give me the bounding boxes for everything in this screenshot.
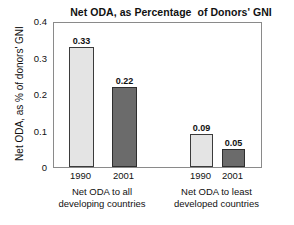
group-caption: Net ODA to leastdeveloped countries: [157, 186, 277, 209]
chart-title: Net ODA, as Percentage of Donors' GNI: [52, 6, 290, 18]
bar: [222, 149, 245, 167]
y-tick-label: 0.2: [19, 89, 47, 100]
group-caption-line: developed countries: [157, 198, 277, 210]
x-tick-label: 1990: [61, 170, 100, 181]
bar-value-label: 0.33: [63, 36, 100, 46]
bar-value-label: 0.22: [106, 76, 143, 86]
group-caption: Net ODA to alldeveloping countries: [42, 186, 162, 209]
bar-value-label: 0.09: [184, 123, 219, 133]
bar-value-label: 0.05: [216, 138, 251, 148]
y-tick-label: 0.3: [19, 53, 47, 64]
bar: [69, 47, 94, 167]
group-caption-line: Net ODA to least: [157, 186, 277, 198]
y-tick-label: 0.1: [19, 126, 47, 137]
x-tick-label: 2001: [104, 170, 143, 181]
bar: [112, 87, 137, 167]
x-tick-label: 2001: [214, 170, 251, 181]
chart-figure: Net ODA, as Percentage of Donors' GNI Ne…: [0, 0, 294, 225]
group-caption-line: Net ODA to all: [42, 186, 162, 198]
plot-area: 0.330.220.090.05: [53, 22, 262, 168]
y-tick-label: 0.4: [19, 16, 47, 27]
group-caption-line: developing countries: [42, 198, 162, 210]
y-tick-label: 0: [19, 162, 47, 173]
bar: [190, 134, 213, 167]
